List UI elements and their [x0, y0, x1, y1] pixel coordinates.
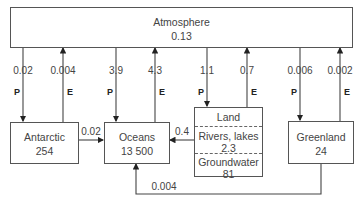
flux-label: 4.3 [148, 65, 162, 76]
greenland-value: 24 [289, 144, 353, 158]
greenland-name: Greenland [289, 130, 353, 144]
evaporation-marker: E [251, 87, 257, 97]
precipitation-marker: P [198, 87, 204, 97]
antarctic-name: Antarctic [11, 130, 78, 144]
evaporation-marker: E [159, 87, 165, 97]
atmosphere-name: Atmosphere [11, 15, 352, 29]
land-to-oceans-label: 0.4 [175, 126, 189, 137]
flux-label: 0.002 [327, 65, 352, 76]
precipitation-marker: P [107, 87, 113, 97]
evaporation-marker: E [67, 87, 73, 97]
oceans-value: 13 500 [105, 144, 169, 158]
rivers-lakes-label: Rivers, lakes [195, 130, 262, 142]
flux-label: 0.006 [287, 65, 312, 76]
precipitation-marker: P [14, 87, 20, 97]
rivers-lakes-section: Rivers, lakes 2.3 [195, 126, 262, 153]
evaporation-marker: E [344, 87, 350, 97]
oceans-name: Oceans [105, 130, 169, 144]
atmosphere-box: Atmosphere 0.13 [10, 7, 353, 48]
flux-label: 3.9 [109, 65, 123, 76]
greenland-box: Greenland 24 [288, 121, 354, 164]
antarctic-box: Antarctic 254 [10, 122, 79, 164]
groundwater-value: 81 [195, 168, 262, 180]
land-box: Land Rivers, lakes 2.3 Groundwater 81 [194, 107, 263, 177]
land-name: Land [195, 111, 262, 126]
precipitation-marker: P [291, 87, 297, 97]
flux-label: 0.02 [13, 65, 32, 76]
antarctic-value: 254 [11, 144, 78, 158]
flux-label: 1.1 [200, 65, 214, 76]
groundwater-label: Groundwater [195, 156, 262, 168]
greenland-to-oceans-label: 0.004 [151, 181, 176, 192]
atmosphere-value: 0.13 [11, 29, 352, 43]
flux-label: 0.004 [50, 65, 75, 76]
antarctic-to-oceans-label: 0.02 [81, 126, 100, 137]
oceans-box: Oceans 13 500 [104, 122, 170, 164]
groundwater-section: Groundwater 81 [195, 153, 262, 180]
flux-label: 0.7 [240, 65, 254, 76]
